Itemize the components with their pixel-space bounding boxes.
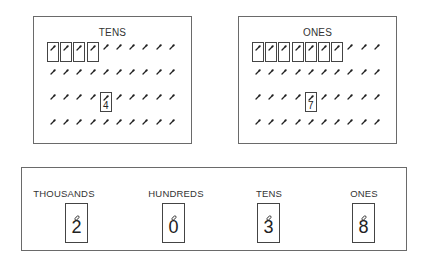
- hook-icon: [169, 69, 175, 75]
- tens-bundle-card: [73, 42, 85, 62]
- tens-bundle-card: [87, 42, 99, 62]
- hook-icon: [142, 119, 148, 125]
- ones-bundle-card: [305, 42, 317, 62]
- tens-bundle-card: [60, 42, 72, 62]
- hook-icon: [50, 69, 56, 75]
- digit-card-ones: 8: [352, 203, 375, 243]
- hook-icon: [255, 69, 261, 75]
- hook-icon: [76, 45, 82, 51]
- hook-icon: [103, 69, 109, 75]
- hook-icon: [281, 69, 287, 75]
- hook-icon: [63, 45, 69, 51]
- place-value-chart: THOUSANDS 2 HUNDREDS 0 TENS 3 ONES: [21, 167, 407, 251]
- hook-icon: [103, 44, 109, 50]
- hook-icon: [63, 69, 69, 75]
- digit-card-tens: 3: [257, 203, 280, 243]
- hook-icon: [374, 119, 380, 125]
- digit-hundreds: 0: [163, 217, 184, 238]
- ones-bundle-card: [331, 42, 343, 62]
- ones-bundle-card: [278, 42, 290, 62]
- hook-icon: [142, 69, 148, 75]
- hook-icon: [90, 94, 96, 100]
- hook-icon: [156, 94, 162, 100]
- hook-icon: [374, 69, 380, 75]
- ones-bundle-card: [318, 42, 330, 62]
- hook-icon: [347, 69, 353, 75]
- hook-icon: [63, 94, 69, 100]
- digit-tens: 3: [258, 217, 279, 238]
- hook-icon: [169, 44, 175, 50]
- hook-icon: [50, 94, 56, 100]
- hook-icon: [129, 69, 135, 75]
- ones-bundle-card: [292, 42, 304, 62]
- tens-panel-title: TENS: [34, 27, 191, 38]
- hook-icon: [116, 44, 122, 50]
- hook-icon: [169, 94, 175, 100]
- hook-icon: [334, 119, 340, 125]
- hook-icon: [76, 69, 82, 75]
- ones-bundle-card: [252, 42, 264, 62]
- ones-bundle-card: [265, 42, 277, 62]
- hook-icon: [268, 119, 274, 125]
- digit-thousands: 2: [66, 217, 87, 238]
- hook-icon: [361, 94, 367, 100]
- hook-icon: [76, 94, 82, 100]
- hook-icon: [295, 45, 301, 51]
- hook-icon: [268, 45, 274, 51]
- ones-panel-title: ONES: [239, 27, 396, 38]
- hook-icon: [321, 119, 327, 125]
- hook-icon: [347, 44, 353, 50]
- digit-card-thousands: 2: [65, 203, 88, 243]
- hook-icon: [334, 45, 340, 51]
- hook-icon: [129, 44, 135, 50]
- digit-ones: 8: [353, 217, 374, 238]
- hook-icon: [255, 45, 261, 51]
- hook-icon: [90, 69, 96, 75]
- tens-bundle-card: [47, 42, 59, 62]
- hook-icon: [334, 69, 340, 75]
- ones-digit-card: 7: [305, 92, 317, 112]
- hook-icon: [321, 94, 327, 100]
- hook-icon: [295, 94, 301, 100]
- hook-icon: [347, 119, 353, 125]
- hook-icon: [295, 69, 301, 75]
- hook-icon: [116, 94, 122, 100]
- hook-icon: [268, 69, 274, 75]
- ones-pocket-chart: ONES 7: [238, 16, 397, 144]
- hook-icon: [281, 119, 287, 125]
- hook-icon: [103, 119, 109, 125]
- place-label-ones: ONES: [324, 188, 404, 199]
- tens-pocket-chart: TENS 4: [33, 16, 192, 144]
- hook-icon: [321, 69, 327, 75]
- hook-icon: [334, 94, 340, 100]
- ones-digit: 7: [306, 100, 316, 111]
- place-label-tens: TENS: [229, 188, 309, 199]
- hook-icon: [361, 44, 367, 50]
- hook-icon: [321, 45, 327, 51]
- hook-icon: [129, 119, 135, 125]
- hook-icon: [116, 69, 122, 75]
- place-label-thousands: THOUSANDS: [24, 188, 104, 199]
- hook-icon: [169, 119, 175, 125]
- hook-icon: [142, 44, 148, 50]
- hook-icon: [308, 119, 314, 125]
- hook-icon: [142, 94, 148, 100]
- hook-icon: [361, 69, 367, 75]
- hook-icon: [63, 119, 69, 125]
- hook-icon: [90, 119, 96, 125]
- hook-icon: [374, 44, 380, 50]
- hook-icon: [50, 45, 56, 51]
- hook-icon: [308, 69, 314, 75]
- hook-icon: [129, 94, 135, 100]
- digit-card-hundreds: 0: [162, 203, 185, 243]
- hook-icon: [255, 119, 261, 125]
- hook-icon: [361, 119, 367, 125]
- hook-icon: [308, 45, 314, 51]
- hook-icon: [90, 45, 96, 51]
- tens-digit: 4: [101, 100, 111, 111]
- hook-icon: [156, 119, 162, 125]
- hook-icon: [268, 94, 274, 100]
- hook-icon: [295, 119, 301, 125]
- hook-icon: [116, 119, 122, 125]
- hook-icon: [156, 69, 162, 75]
